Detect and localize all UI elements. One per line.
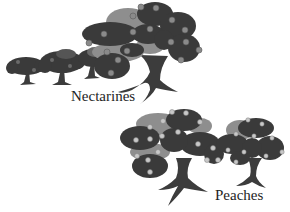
peaches-label: Peaches bbox=[215, 188, 263, 203]
orchard-illustration: Nectarines Peaches bbox=[0, 0, 290, 212]
small-nectarine-tree-2-icon bbox=[38, 49, 85, 85]
large-peach-tree-icon bbox=[120, 109, 224, 206]
small-peach-tree-icon bbox=[216, 118, 284, 188]
nectarines-label: Nectarines bbox=[71, 89, 135, 104]
